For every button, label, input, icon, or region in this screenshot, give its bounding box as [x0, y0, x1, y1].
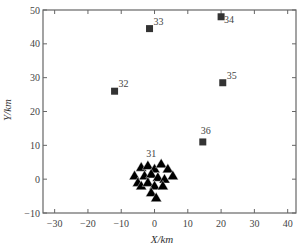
cluster-label-31: 31 — [146, 148, 156, 159]
x-tick-label: −30 — [47, 218, 63, 229]
x-tick-label: −20 — [80, 218, 96, 229]
station-label-34: 34 — [224, 14, 234, 25]
station-marker-35 — [219, 79, 226, 86]
station-label-36: 36 — [201, 125, 211, 136]
markers: 323334353631 — [111, 13, 237, 201]
axes: −30−20−10010203040−1001020304050 — [24, 5, 296, 230]
x-axis-title: X/km — [150, 233, 174, 245]
x-tick-label: 10 — [183, 218, 193, 229]
y-tick-label: 50 — [30, 5, 40, 16]
scatter-chart: −30−20−10010203040−1001020304050 3233343… — [0, 0, 304, 250]
x-tick-label: −10 — [113, 218, 129, 229]
x-tick-label: 20 — [216, 218, 226, 229]
y-tick-label: 0 — [35, 174, 40, 185]
y-axis-title: Y/km — [1, 99, 13, 121]
x-tick-label: 30 — [249, 218, 259, 229]
x-tick-label: 40 — [283, 218, 293, 229]
station-marker-32 — [111, 88, 118, 95]
y-tick-label: −10 — [24, 208, 40, 219]
x-tick-label: 0 — [152, 218, 157, 229]
station-label-33: 33 — [154, 16, 164, 27]
station-label-35: 35 — [227, 70, 237, 81]
y-tick-label: 40 — [30, 38, 40, 49]
y-tick-label: 20 — [30, 106, 40, 117]
triangle-marker — [156, 158, 167, 167]
station-marker-33 — [146, 25, 153, 32]
station-label-32: 32 — [119, 78, 129, 89]
y-tick-label: 30 — [30, 72, 40, 83]
y-tick-label: 10 — [30, 140, 40, 151]
station-marker-36 — [199, 138, 206, 145]
